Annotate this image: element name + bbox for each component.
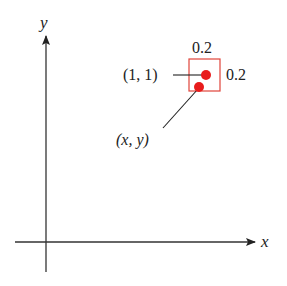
y-axis-label: y: [38, 13, 48, 32]
diagram-canvas: y x 0.2 0.2 (1, 1) (x, y): [0, 0, 287, 286]
leader-line-x-y: [163, 89, 198, 128]
point-label-1-1: (1, 1): [123, 66, 158, 84]
box-height-label: 0.2: [226, 66, 246, 83]
point-x-y: [194, 82, 204, 92]
point-1-1: [201, 70, 211, 80]
box-width-label: 0.2: [192, 39, 212, 56]
x-axis-label: x: [260, 232, 269, 251]
point-label-x-y: (x, y): [116, 131, 149, 149]
